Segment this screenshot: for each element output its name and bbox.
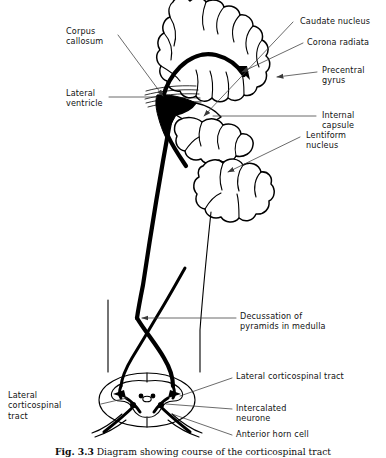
label-corpus-callosum: Corpus callosum	[66, 26, 103, 47]
label-lateral-corticospinal-tract-left: Lateral corticospinal tract	[8, 390, 61, 421]
figure-root: Corpus callosum Lateral ventricle Caudat…	[0, 0, 386, 458]
label-lateral-corticospinal-tract-right: Lateral corticospinal tract	[236, 371, 344, 381]
anterior-horn-cell-left	[104, 398, 140, 432]
figure-caption: Fig. 3.3 Diagram showing course of the c…	[0, 446, 386, 458]
figure-number: Fig. 3.3	[55, 446, 94, 457]
label-internal-capsule: Internal capsule	[322, 110, 354, 131]
leader-intercalated-neurone	[166, 404, 232, 409]
label-precentral-gyrus: Precentral gyrus	[322, 65, 365, 86]
label-lentiform-nucleus: Lentiform nucleus	[306, 130, 346, 151]
label-caudate-nucleus: Caudate nucleus	[300, 16, 370, 26]
leader-precentral-gyrus	[277, 72, 317, 77]
anterior-horn-cell-right	[154, 398, 190, 432]
label-corona-radiata: Corona radiata	[307, 37, 369, 47]
lentiform-nucleus	[194, 159, 274, 222]
label-lateral-ventricle: Lateral ventricle	[66, 88, 103, 109]
leader-corpus-callosum	[118, 35, 163, 96]
figure-caption-text: Diagram showing course of the corticospi…	[97, 446, 331, 457]
label-intercalated-neurone: Intercalated neurone	[236, 403, 287, 424]
spinal-cord-cross-section	[92, 373, 202, 437]
leader-lct-right	[180, 378, 232, 396]
label-decussation-of-pyramids: Decussation of pyramids in medulla	[240, 311, 326, 332]
label-anterior-horn-cell: Anterior horn cell	[236, 429, 309, 439]
deep-nuclei-group	[175, 118, 275, 222]
